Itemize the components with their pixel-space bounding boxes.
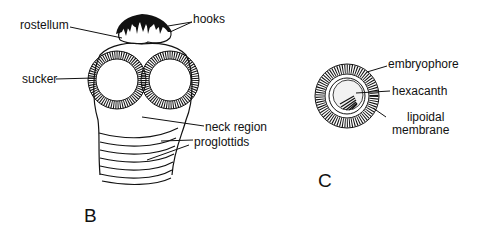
panel-label-b: B <box>84 205 97 227</box>
label-neck-region: neck region <box>205 121 267 134</box>
hooks-crown <box>116 14 172 36</box>
label-proglottids: proglottids <box>194 136 249 149</box>
label-embryophore: embryophore <box>388 58 459 71</box>
proglottid-segments <box>99 128 178 184</box>
label-hooks: hooks <box>193 13 225 26</box>
label-hexacanth: hexacanth <box>392 85 447 98</box>
egg-drawing <box>315 64 379 128</box>
label-membrane: membrane <box>392 124 449 137</box>
label-rostellum: rostellum <box>20 19 69 32</box>
sucker-left <box>88 51 146 109</box>
label-sucker: sucker <box>22 73 57 86</box>
panel-label-c: C <box>318 170 332 192</box>
sucker-right <box>141 51 199 109</box>
